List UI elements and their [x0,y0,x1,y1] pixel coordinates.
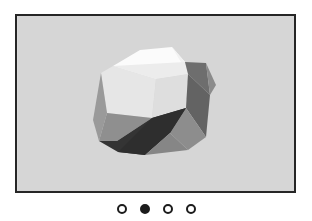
pagination-dot-2[interactable]: Go to slide 2 [140,204,150,214]
pagination-dot-3[interactable]: Go to slide 3 [163,204,173,214]
pagination-dot-label: Go to slide 2 [145,209,146,210]
pagination-dot-label: Go to slide 4 [191,209,192,210]
pagination-dot-label: Go to slide 1 [122,209,123,210]
slide-frame[interactable] [15,14,296,193]
pagination-dot-4[interactable]: Go to slide 4 [186,204,196,214]
carousel-pagination: Go to slide 1Go to slide 2Go to slide 3G… [0,199,312,219]
image-carousel: Go to slide 1Go to slide 2Go to slide 3G… [0,0,312,221]
pagination-dot-1[interactable]: Go to slide 1 [117,204,127,214]
polyhedron-illustration [17,16,294,191]
pagination-dot-label: Go to slide 3 [168,209,169,210]
